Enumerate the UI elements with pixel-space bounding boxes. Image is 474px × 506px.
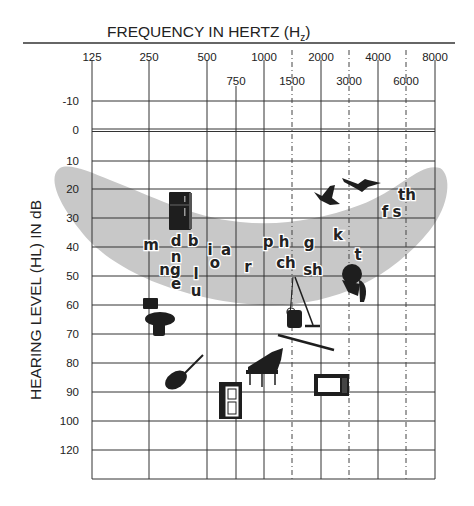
sound-p: p bbox=[263, 233, 274, 251]
door-icon bbox=[219, 382, 242, 419]
sound-r: r bbox=[244, 258, 252, 276]
microwave-icon bbox=[314, 374, 349, 396]
svg-text:2000: 2000 bbox=[308, 51, 334, 63]
sound-m: m bbox=[143, 236, 159, 254]
svg-text:125: 125 bbox=[82, 51, 101, 63]
bird-icon-flying bbox=[342, 178, 381, 192]
sound-g: g bbox=[304, 234, 315, 252]
svg-text:8000: 8000 bbox=[422, 51, 448, 63]
sound-e: e bbox=[171, 275, 181, 293]
flute-icon bbox=[278, 335, 334, 350]
sound-th: th bbox=[398, 186, 416, 204]
sound-h: h bbox=[279, 233, 290, 251]
svg-text:80: 80 bbox=[66, 357, 79, 369]
svg-text:60: 60 bbox=[66, 299, 79, 311]
svg-text:30: 30 bbox=[66, 212, 79, 224]
svg-text:70: 70 bbox=[66, 328, 79, 340]
svg-text:-10: -10 bbox=[62, 95, 79, 107]
svg-text:20: 20 bbox=[66, 183, 79, 195]
svg-text:500: 500 bbox=[197, 51, 216, 63]
toilet-icon bbox=[143, 298, 175, 336]
sound-s: s bbox=[393, 203, 402, 221]
svg-text:120: 120 bbox=[60, 444, 79, 456]
chart-title: FREQUENCY IN HERTZ (Hz) bbox=[107, 23, 310, 43]
svg-text:50: 50 bbox=[66, 270, 79, 282]
svg-text:1000: 1000 bbox=[251, 51, 277, 63]
audiogram-chart: FREQUENCY IN HERTZ (Hz) bbox=[0, 0, 474, 506]
violin-icon bbox=[162, 355, 203, 393]
bird-icon bbox=[314, 185, 340, 205]
svg-text:6000: 6000 bbox=[393, 75, 419, 87]
svg-text:40: 40 bbox=[66, 241, 79, 253]
svg-text:100: 100 bbox=[60, 415, 79, 427]
x-ticks-mid: 750 1500 3000 6000 bbox=[226, 75, 418, 87]
svg-text:750: 750 bbox=[226, 75, 245, 87]
sound-b: b bbox=[188, 232, 199, 250]
sound-u: u bbox=[191, 282, 202, 300]
sound-o: o bbox=[210, 254, 220, 272]
svg-text:0: 0 bbox=[73, 124, 79, 136]
sound-f: f bbox=[382, 203, 389, 221]
svg-text:3000: 3000 bbox=[336, 75, 362, 87]
sound-ch: ch bbox=[276, 254, 296, 272]
refrigerator-icon bbox=[169, 192, 192, 230]
sound-l: l bbox=[193, 265, 198, 283]
svg-text:4000: 4000 bbox=[365, 51, 391, 63]
svg-text:90: 90 bbox=[66, 386, 79, 398]
svg-text:1500: 1500 bbox=[279, 75, 305, 87]
y-ticks: -10 0 10 20 30 40 50 60 70 80 90 100 120 bbox=[60, 95, 79, 456]
sound-a: a bbox=[221, 241, 231, 259]
x-ticks-top: 125 250 500 1000 2000 4000 8000 bbox=[82, 51, 447, 63]
sound-t: t bbox=[354, 246, 361, 264]
sound-sh: sh bbox=[303, 261, 323, 279]
svg-text:250: 250 bbox=[139, 51, 158, 63]
speech-banana bbox=[54, 167, 447, 306]
sound-k: k bbox=[333, 226, 344, 244]
svg-text:10: 10 bbox=[66, 155, 79, 167]
y-axis-label: HEARING LEVEL (HL) IN dB bbox=[27, 200, 44, 400]
